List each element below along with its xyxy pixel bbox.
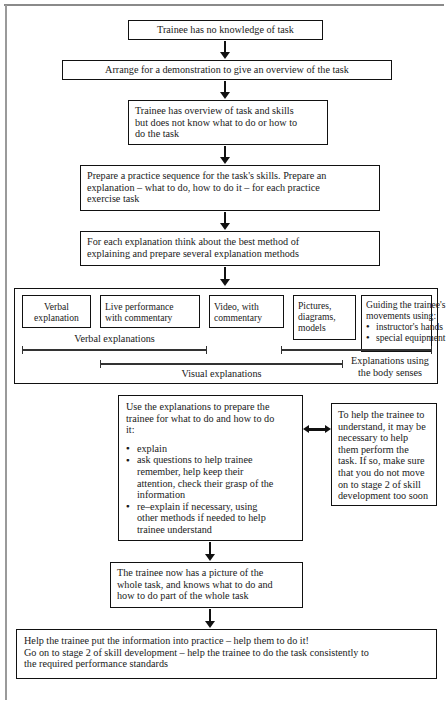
node-use-the-explanations: Use the explanations to prepare the trai… xyxy=(118,395,303,541)
explanation-methods-group: Verbal explanation Live performance with… xyxy=(14,288,438,384)
span-label-verbal-explanations: Verbal explanations xyxy=(22,333,207,345)
node-trainee-has-no-knowledge: Trainee has no knowledge of task xyxy=(128,20,323,40)
node-arrange-demonstration: Arrange for a demonstration to give an o… xyxy=(62,60,392,80)
span-label-verbal-explanations-text: Verbal explanations xyxy=(22,333,207,345)
node-trainee-has-overview-line2: but does not know what to do or how to xyxy=(135,117,321,129)
method-guiding-bullet-special-equipment: special equipment xyxy=(366,332,446,343)
node-final-outcome-line1: Help the trainee put the information int… xyxy=(24,635,429,647)
node-help-perform-line4: them perform the xyxy=(338,444,430,456)
arrow-use-explanations-to-trainee-picture xyxy=(205,542,216,562)
node-trainee-has-no-knowledge-text: Trainee has no knowledge of task xyxy=(135,23,316,37)
node-help-perform-line2: understand, it may be xyxy=(338,421,430,433)
node-trainee-has-overview-line1: Trainee has overview of task and skills xyxy=(135,105,321,117)
arrow-overview-to-prepare xyxy=(220,146,231,164)
span-label-body-senses-line1: Explanations using xyxy=(348,355,432,367)
node-help-perform-line7: on to stage 2 of skill xyxy=(338,479,430,491)
node-trainee-picture-line1: The trainee now has a picture of the xyxy=(117,567,296,579)
arrow-prepare-to-think xyxy=(220,212,231,230)
method-box-pictures-diagrams-models: Pictures, diagrams, models xyxy=(293,295,356,340)
node-trainee-has-overview-line3: do the task xyxy=(135,128,321,140)
node-trainee-now-has-picture: The trainee now has a picture of the who… xyxy=(110,562,303,608)
node-think-best-method-line1: For each explanation think about the bes… xyxy=(87,236,373,248)
method-live-performance-line2: with commentary xyxy=(105,312,195,323)
bullet-re-explain-line3: trainee understand xyxy=(137,524,295,536)
bullet-re-explain-line2: other methods if needed to help xyxy=(137,512,295,524)
method-box-video-commentary: Video, with commentary xyxy=(209,295,284,328)
bullet-explain-line1: explain xyxy=(137,443,295,455)
bullet-ask-questions: ask questions to help trainee remember, … xyxy=(126,454,295,500)
bullet-ask-questions-line4: information xyxy=(137,489,295,501)
node-use-explanations-intro3: it: xyxy=(126,424,295,436)
node-final-outcome-line2: Go on to stage 2 of skill development – … xyxy=(24,647,429,659)
span-label-visual-explanations: Visual explanations xyxy=(100,368,343,380)
span-label-body-senses-line2: the body senses xyxy=(348,367,432,379)
arrow-no-knowledge-to-arrange xyxy=(220,41,231,59)
page-frame-left-rule xyxy=(5,5,7,700)
method-pictures-line3: models xyxy=(298,322,351,333)
arrow-trainee-picture-to-final xyxy=(205,609,216,629)
bullet-re-explain-line1: re–explain if necessary, using xyxy=(137,501,295,513)
node-arrange-demonstration-text: Arrange for a demonstration to give an o… xyxy=(69,63,385,77)
arrow-arrange-to-overview xyxy=(220,81,231,99)
method-guiding-bullet-instructors-hands: instructor's hands xyxy=(366,321,443,332)
method-verbal-explanation-line2: explanation xyxy=(27,312,86,323)
node-help-perform-line6: that you do not move xyxy=(338,467,430,479)
node-prepare-practice-line2: explanation – what to do, how to do it –… xyxy=(87,182,373,194)
node-final-outcome: Help the trainee put the information int… xyxy=(16,629,437,679)
node-prepare-practice-line3: exercise task xyxy=(87,193,373,205)
method-pictures-line1: Pictures, xyxy=(298,300,351,311)
bullet-re-explain: re–explain if necessary, using other met… xyxy=(126,501,295,536)
bullet-ask-questions-line2: remember, help keep their xyxy=(137,466,295,478)
span-label-visual-explanations-text: Visual explanations xyxy=(100,368,343,380)
method-box-live-performance: Live performance with commentary xyxy=(100,295,200,328)
bullet-explain: explain xyxy=(126,443,295,455)
method-box-guiding-the-trainee: Guiding the trainee's movements using: i… xyxy=(361,295,432,352)
node-help-perform-line5: task. If so, make sure xyxy=(338,455,430,467)
bullet-ask-questions-line1: ask questions to help trainee xyxy=(137,454,295,466)
node-help-trainee-perform-task: To help the trainee to understand, it ma… xyxy=(331,403,437,506)
page-frame-top-rule xyxy=(4,4,444,6)
node-trainee-picture-line2: whole task, and knows what to do and xyxy=(117,579,296,591)
node-use-explanations-intro1: Use the explanations to prepare the xyxy=(126,401,295,413)
span-bracket-verbal-explanations xyxy=(22,346,207,354)
method-video-commentary-line1: Video, with xyxy=(214,301,279,312)
method-guiding-line1: Guiding the trainee's xyxy=(366,299,427,310)
arrow-think-to-methods-group xyxy=(220,267,231,287)
bullet-ask-questions-line3: attention, check their grasp of the xyxy=(137,478,295,490)
node-final-outcome-line3: the required performance standards xyxy=(24,658,429,670)
span-bracket-visual-explanations xyxy=(100,360,343,368)
node-use-explanations-bullet-list: explain ask questions to help trainee re… xyxy=(126,443,295,536)
node-prepare-practice-sequence: Prepare a practice sequence for the task… xyxy=(80,165,380,211)
method-box-verbal-explanation: Verbal explanation xyxy=(22,295,91,328)
node-trainee-picture-line3: how to do part of the whole task xyxy=(117,590,296,602)
node-use-explanations-intro2: trainee for what to do and how to do xyxy=(126,413,295,425)
method-pictures-line2: diagrams, xyxy=(298,311,351,322)
node-help-perform-line8: development too soon xyxy=(338,490,430,502)
span-label-body-senses: Explanations using the body senses xyxy=(348,355,432,378)
method-live-performance-line1: Live performance xyxy=(105,301,195,312)
arrow-explanations-to-help-perform xyxy=(303,425,331,434)
node-help-perform-line3: necessary to help xyxy=(338,432,430,444)
method-verbal-explanation-line1: Verbal xyxy=(27,301,86,312)
node-think-best-method-line2: explaining and prepare several explanati… xyxy=(87,248,373,260)
node-trainee-has-overview: Trainee has overview of task and skills … xyxy=(128,100,328,145)
method-guiding-line2: movements using: xyxy=(366,310,427,321)
span-bracket-body-senses xyxy=(281,346,432,354)
node-prepare-practice-line1: Prepare a practice sequence for the task… xyxy=(87,170,373,182)
method-video-commentary-line2: commentary xyxy=(214,312,279,323)
node-help-perform-line1: To help the trainee to xyxy=(338,409,430,421)
node-think-best-method: For each explanation think about the bes… xyxy=(80,231,380,266)
